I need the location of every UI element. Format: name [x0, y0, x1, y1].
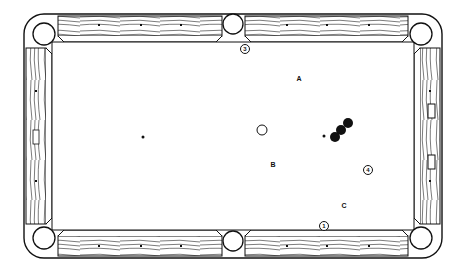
head-spot — [142, 136, 145, 139]
position-label-c: C — [341, 202, 346, 209]
pool-table — [0, 0, 465, 272]
left-rail-plate — [33, 130, 39, 144]
pocket-top-right — [410, 23, 432, 45]
pocket-top-left — [33, 23, 55, 45]
aim-spot — [323, 135, 326, 138]
right-rail — [420, 48, 440, 224]
pocket-top-middle — [223, 14, 243, 34]
pocket-bottom-middle — [223, 231, 243, 251]
playing-surface — [52, 42, 414, 230]
marker-4: 4 — [363, 165, 373, 175]
cue-ball — [257, 125, 268, 136]
position-label-b: B — [270, 161, 275, 168]
right-rail-plate-upper — [428, 104, 435, 118]
right-rail-plate-lower — [428, 155, 435, 169]
marker-1: 1 — [319, 221, 329, 231]
pocket-bottom-right — [410, 227, 432, 249]
marker-3: 3 — [240, 44, 250, 54]
object-ball — [330, 132, 340, 142]
pocket-bottom-left — [33, 227, 55, 249]
position-label-a: A — [296, 75, 301, 82]
